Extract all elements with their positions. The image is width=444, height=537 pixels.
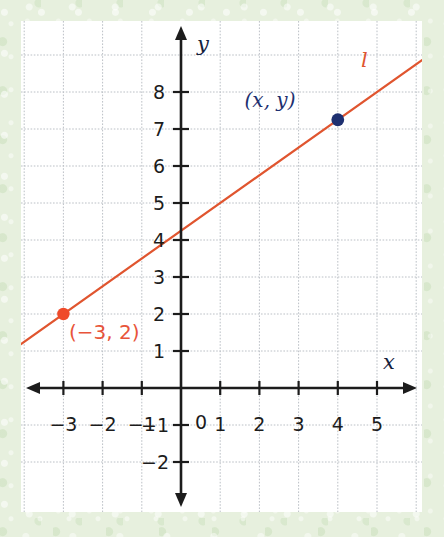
y-tick-label-3: 3 — [153, 266, 165, 288]
line-l — [21, 60, 422, 344]
x-tick-label--2: −2 — [89, 413, 117, 435]
y-tick-label-2: 2 — [153, 303, 165, 325]
x-tick-label-4: 4 — [332, 413, 344, 435]
y-tick-label-6: 6 — [153, 155, 165, 177]
x-tick-label--3: −3 — [49, 413, 77, 435]
x-tick-labels: −3 −2 −1 0 1 2 3 4 5 — [49, 411, 383, 435]
coordinate-plane-svg: 8 7 6 5 4 3 2 1 −1 −2 −3 −2 −1 0 1 2 3 4 — [21, 21, 422, 512]
blue-point-label: (x, y) — [245, 88, 296, 112]
x-axis-arrow-right-icon — [403, 382, 417, 394]
origin-label: 0 — [195, 411, 207, 433]
y-tick-label-7: 7 — [153, 118, 165, 140]
axes-group — [26, 26, 417, 507]
red-point-marker — [57, 308, 69, 320]
grid-lines — [21, 21, 422, 512]
x-tick-label--1: −1 — [128, 413, 156, 435]
blue-point-marker — [331, 113, 344, 126]
y-axis-arrow-down-icon — [175, 493, 187, 507]
x-axis-arrow-left-icon — [26, 382, 40, 394]
line-l-label: l — [361, 48, 368, 72]
y-tick-label-5: 5 — [153, 192, 165, 214]
x-axis-name-label: x — [383, 350, 395, 374]
y-axis-name-label: y — [196, 32, 210, 56]
x-tick-label-2: 2 — [253, 413, 265, 435]
red-point-label: (−3, 2) — [69, 320, 140, 344]
x-tick-label-3: 3 — [293, 413, 305, 435]
y-tick-label--2: −2 — [141, 451, 169, 473]
x-tick-label-1: 1 — [214, 413, 226, 435]
y-tick-label-8: 8 — [153, 81, 165, 103]
y-tick-label-1: 1 — [153, 340, 165, 362]
y-tick-label-4: 4 — [153, 229, 165, 251]
page-background: 8 7 6 5 4 3 2 1 −1 −2 −3 −2 −1 0 1 2 3 4 — [0, 0, 444, 537]
x-tick-label-5: 5 — [371, 413, 383, 435]
graph-plot-area: 8 7 6 5 4 3 2 1 −1 −2 −3 −2 −1 0 1 2 3 4 — [21, 21, 422, 512]
y-axis-arrow-up-icon — [175, 26, 187, 40]
